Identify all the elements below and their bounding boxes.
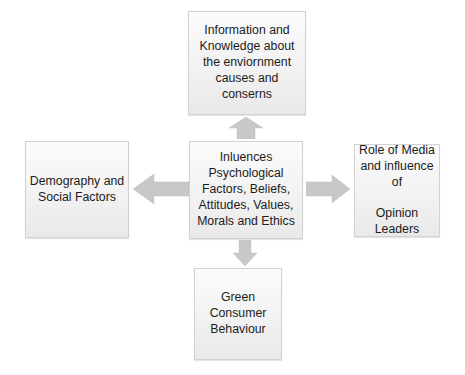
arrow-down-icon — [233, 240, 257, 266]
node-demography-social-factors-label: Demography and Social Factors — [29, 174, 125, 206]
node-information-knowledge-label: Information and Knowledge about the envi… — [192, 23, 302, 103]
arrow-right-icon — [306, 175, 350, 203]
node-green-consumer-behaviour: Green Consumer Behaviour — [194, 268, 282, 360]
node-role-of-media-label: Role of Media and influence of Opinion L… — [358, 143, 436, 239]
node-information-knowledge: Information and Knowledge about the envi… — [188, 11, 306, 115]
node-demography-social-factors: Demography and Social Factors — [25, 141, 129, 238]
node-role-of-media: Role of Media and influence of Opinion L… — [354, 144, 440, 237]
node-green-consumer-behaviour-label: Green Consumer Behaviour — [198, 290, 278, 338]
node-influences-label: Inluences Psychological Factors, Beliefs… — [193, 150, 299, 230]
arrow-left-icon — [133, 174, 189, 204]
arrow-up-icon — [229, 117, 263, 139]
node-influences: Inluences Psychological Factors, Beliefs… — [189, 141, 303, 239]
diagram-canvas: Information and Knowledge about the envi… — [0, 0, 465, 375]
